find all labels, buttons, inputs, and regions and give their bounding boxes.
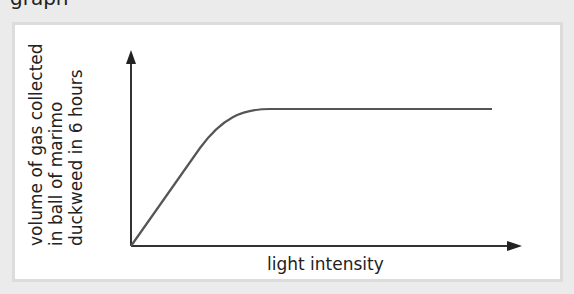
line-graph bbox=[0, 0, 574, 294]
y-axis-label-line-1: volume of gas collected bbox=[26, 26, 46, 246]
y-axis-label-line-2: in ball of marimo bbox=[46, 26, 66, 246]
y-axis-label-line-3: duckweed in 6 hours bbox=[66, 26, 86, 246]
gas-volume-curve bbox=[131, 109, 492, 246]
y-axis-arrow-icon bbox=[126, 50, 136, 64]
x-axis-arrow-icon bbox=[507, 241, 522, 251]
x-axis-label: light intensity bbox=[267, 254, 384, 274]
y-axis-label: volume of gas collected in ball of marim… bbox=[26, 26, 86, 246]
